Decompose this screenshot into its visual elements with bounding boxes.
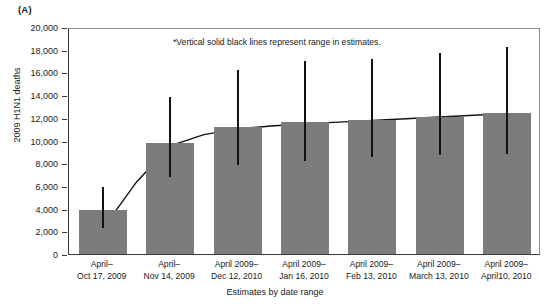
- y-tick-label: 18,000: [0, 46, 58, 56]
- y-tick-label: 0: [0, 250, 58, 260]
- y-tick-label: 12,000: [0, 114, 58, 124]
- y-tick-label: 10,000: [0, 137, 58, 147]
- error-bar: [102, 187, 104, 228]
- error-bar: [371, 59, 373, 158]
- y-tick-mark: [62, 187, 67, 188]
- y-tick-label: 16,000: [0, 68, 58, 78]
- y-tick-label: 8,000: [0, 159, 58, 169]
- y-tick-mark: [62, 142, 67, 143]
- x-tick-label-line: April10, 2010: [467, 271, 546, 283]
- y-tick-label: 4,000: [0, 205, 58, 215]
- y-tick-mark: [62, 210, 67, 211]
- x-tick-label: April 2009–April10, 2010: [467, 259, 546, 282]
- y-tick-label: 20,000: [0, 23, 58, 33]
- y-tick-mark: [62, 119, 67, 120]
- error-bar: [169, 97, 171, 176]
- range-note: *Vertical solid black lines represent ra…: [173, 37, 381, 47]
- y-tick-mark: [62, 164, 67, 165]
- panel-label: (A): [18, 4, 32, 15]
- y-tick-label: 2,000: [0, 227, 58, 237]
- y-tick-label: 14,000: [0, 91, 58, 101]
- y-tick-mark: [62, 96, 67, 97]
- y-tick-mark: [62, 255, 67, 256]
- error-bar: [506, 47, 508, 154]
- y-tick-mark: [62, 51, 67, 52]
- x-tick-label-line: April 2009–: [467, 259, 546, 271]
- y-tick-label: 6,000: [0, 182, 58, 192]
- error-bar: [237, 70, 239, 165]
- error-bar: [439, 53, 441, 155]
- y-tick-mark: [62, 232, 67, 233]
- figure-panel-a: (A) 2009 H1N1 deaths 02,0004,0006,0008,0…: [0, 0, 550, 306]
- y-tick-mark: [62, 28, 67, 29]
- plot-area: *Vertical solid black lines represent ra…: [68, 28, 540, 255]
- y-tick-mark: [62, 73, 67, 74]
- x-axis-title: Estimates by date range: [0, 287, 550, 297]
- error-bar: [304, 61, 306, 161]
